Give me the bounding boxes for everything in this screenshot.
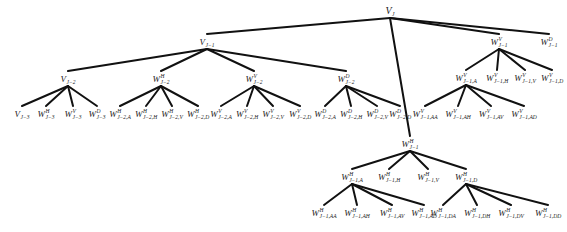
node-symbol: W: [541, 73, 549, 83]
tree-node: WVJ−1: [491, 37, 508, 49]
node-symbol: W: [312, 208, 320, 218]
node-subscript: J−2,A: [117, 115, 131, 121]
tree-node: WHJ−1,A: [341, 172, 363, 184]
node-symbol: W: [210, 109, 218, 119]
node-symbol: W: [344, 208, 352, 218]
tree-node: WHJ−2: [153, 74, 170, 86]
node-symbol: W: [402, 139, 410, 149]
tree-edge: [207, 49, 346, 71]
node-symbol: W: [541, 37, 549, 47]
node-symbol: V: [61, 74, 67, 84]
node-symbol: W: [340, 109, 348, 119]
node-symbol: W: [445, 109, 453, 119]
node-subscript: J−1,DA: [438, 214, 456, 220]
node-symbol: W: [236, 109, 244, 119]
node-symbol: W: [389, 109, 397, 119]
tree-node: WDJ−2,D: [389, 109, 411, 121]
node-subscript: J−1,DD: [543, 214, 561, 220]
node-symbol: W: [511, 109, 519, 119]
node-subscript: J−2: [161, 80, 170, 86]
node-subscript: J−1: [549, 43, 558, 49]
tree-node: WHJ−2,D: [187, 109, 209, 121]
node-subscript: J−2: [67, 80, 76, 86]
node-symbol: W: [455, 73, 463, 83]
tree-edge: [443, 184, 466, 205]
tree-node: VJ: [385, 6, 394, 18]
tree-node: WHJ−1,AH: [344, 208, 370, 220]
node-subscript: J−2,D: [195, 115, 209, 121]
node-symbol: V: [200, 37, 206, 47]
tree-node: WDJ−2: [338, 74, 355, 86]
node-subscript: J−3: [73, 115, 82, 121]
tree-node: WHJ−1,DH: [464, 208, 490, 220]
node-subscript: J−2: [254, 80, 263, 86]
node-symbol: W: [38, 109, 46, 119]
node-symbol: W: [411, 208, 419, 218]
tree-node: VJ−2: [61, 74, 76, 86]
node-subscript: J−1,V: [522, 79, 536, 85]
node-symbol: W: [338, 74, 346, 84]
node-subscript: J−1,AA: [421, 115, 438, 121]
node-subscript: J−2,A: [218, 115, 232, 121]
tree-edge: [497, 49, 499, 70]
tree-node: WHJ−1,DV: [498, 208, 524, 220]
node-subscript: J−1,AD: [519, 115, 537, 121]
tree-node: WDJ−2,A: [314, 109, 336, 121]
tree-edge: [207, 18, 390, 34]
tree-node: WHJ−2,A: [109, 109, 131, 121]
node-subscript: J−1,D: [549, 79, 563, 85]
node-subscript: J−1,D: [463, 178, 477, 184]
node-subscript: J−1,A: [349, 178, 363, 184]
node-symbol: W: [187, 109, 195, 119]
node-subscript: J: [392, 12, 394, 18]
node-subscript: J−1,AH: [352, 214, 370, 220]
node-subscript: J−1: [410, 145, 419, 151]
tree-edge: [499, 49, 552, 70]
node-symbol: W: [417, 172, 425, 182]
node-subscript: J−1,H: [494, 79, 508, 85]
node-subscript: J−1,AV: [388, 214, 405, 220]
node-subscript: J−1: [206, 43, 215, 49]
node-subscript: J−1,DV: [506, 214, 524, 220]
node-subscript: J−3: [46, 115, 55, 121]
tree-edge: [324, 184, 352, 205]
node-subscript: J−3: [97, 115, 106, 121]
node-symbol: V: [15, 109, 21, 119]
tree-node: WDJ−1: [541, 37, 558, 49]
node-symbol: W: [498, 208, 506, 218]
tree-node: WHJ−1,DD: [535, 208, 561, 220]
node-symbol: W: [366, 109, 374, 119]
tree-node: VJ−1: [200, 37, 215, 49]
tree-edge: [352, 151, 410, 169]
node-symbol: W: [109, 109, 117, 119]
node-symbol: W: [341, 172, 349, 182]
node-symbol: W: [535, 208, 543, 218]
tree-node: WHJ−3: [38, 109, 55, 121]
node-symbol: W: [514, 73, 522, 83]
tree-node: WVJ−2: [246, 74, 263, 86]
node-subscript: J−1,AV: [487, 115, 504, 121]
node-symbol: W: [378, 172, 386, 182]
tree-edge: [466, 49, 499, 70]
node-subscript: J−2,V: [270, 115, 284, 121]
tree-edge: [120, 86, 161, 106]
node-subscript: J−1,V: [425, 178, 439, 184]
tree-edge: [254, 86, 300, 106]
node-subscript: J−2: [346, 80, 355, 86]
tree-node: WDJ−2,H: [340, 109, 362, 121]
tree-node: WVJ−2,A: [210, 109, 232, 121]
tree-node: WHJ−1,V: [417, 172, 439, 184]
node-symbol: W: [380, 208, 388, 218]
node-symbol: W: [246, 74, 254, 84]
node-subscript: J−2,H: [143, 115, 157, 121]
node-symbol: W: [65, 109, 73, 119]
node-symbol: W: [464, 208, 472, 218]
node-subscript: J−1,AH: [453, 115, 471, 121]
node-subscript: J−2,A: [322, 115, 336, 121]
node-subscript: J−1,H: [386, 178, 400, 184]
tree-node: WHJ−1,H: [378, 172, 400, 184]
tree-node: WVJ−2,V: [262, 109, 284, 121]
node-symbol: W: [486, 73, 494, 83]
node-symbol: W: [455, 172, 463, 182]
node-symbol: W: [262, 109, 270, 119]
